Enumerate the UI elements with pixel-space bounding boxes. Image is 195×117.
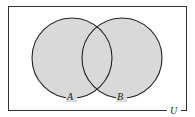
set-b-label: B [117,91,123,102]
venn-diagram: A B U [0,0,195,117]
universe-label: U [170,105,178,116]
set-a-label: A [66,91,74,102]
venn-svg: A B U [0,0,195,117]
